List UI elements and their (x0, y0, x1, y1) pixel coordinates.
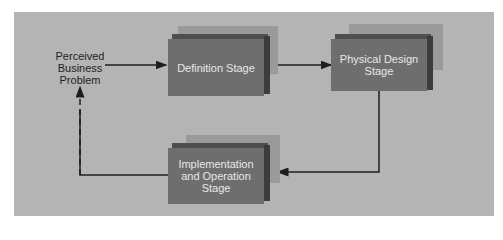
implementation-stage-label: Implementation and Operation Stage (168, 148, 264, 204)
physical-design-stage-label: Physical Design Stage (331, 39, 427, 91)
definition-stage-label: Definition Stage (168, 39, 264, 96)
line-implementation-to-feedback (80, 110, 170, 175)
arrow-physical-to-implementation (278, 88, 379, 172)
perceived-business-problem-label: Perceived Business Problem (42, 50, 118, 86)
